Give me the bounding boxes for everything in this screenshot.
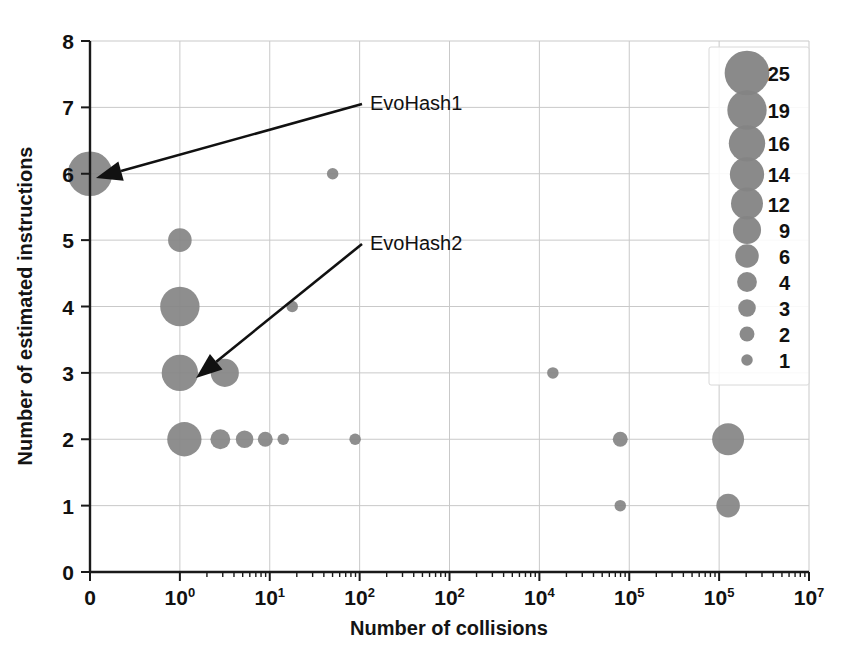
- y-tick-label: 6: [62, 163, 74, 186]
- legend-label: 4: [779, 272, 791, 294]
- legend-label: 14: [768, 164, 791, 186]
- y-axis-title: Number of estimated instructions: [14, 147, 36, 466]
- bubble-point: [277, 434, 289, 446]
- y-tick-label: 5: [62, 229, 74, 252]
- legend-label: 16: [768, 133, 790, 155]
- legend-bubble: [725, 51, 770, 96]
- y-tick-label: 8: [62, 30, 74, 53]
- bubble-point: [327, 168, 339, 180]
- bubble-point: [236, 430, 254, 448]
- bubble-evohash2: [162, 355, 198, 391]
- legend-bubble: [737, 272, 757, 292]
- legend-label: 6: [779, 246, 790, 268]
- bubble-point: [615, 500, 627, 512]
- bubble-point: [712, 423, 744, 455]
- legend-bubble: [741, 354, 753, 366]
- legend-bubble: [731, 188, 763, 220]
- bubble-point: [168, 228, 192, 252]
- legend-bubble: [733, 216, 761, 244]
- legend-bubble: [740, 327, 755, 342]
- chart-canvas: 0100101102102104105105107 012345678 Numb…: [0, 0, 858, 670]
- legend-bubble: [738, 299, 756, 317]
- legend-label: 2: [779, 324, 790, 346]
- legend-label: 12: [768, 194, 790, 216]
- legend-label: 1: [779, 350, 790, 372]
- y-tick-label: 0: [62, 561, 74, 584]
- legend-label: 9: [779, 220, 790, 242]
- y-tick-label: 4: [62, 296, 74, 319]
- y-tick-label: 1: [62, 495, 74, 518]
- bubble-point: [613, 432, 628, 447]
- y-axis-tick-labels: 012345678: [62, 30, 74, 584]
- y-tick-label: 3: [62, 362, 74, 385]
- bubble-point: [258, 432, 273, 447]
- bubble-chart-figure: 0100101102102104105105107 012345678 Numb…: [0, 0, 858, 670]
- x-axis-title: Number of collisions: [350, 617, 548, 639]
- legend-label: 3: [779, 298, 790, 320]
- x-tick-label: 0: [84, 586, 96, 609]
- annotation-label: EvoHash1: [370, 92, 462, 114]
- annotation-label: EvoHash2: [370, 232, 462, 254]
- legend-label: 25: [768, 63, 790, 85]
- legend-bubble: [727, 90, 766, 129]
- legend-bubble: [730, 157, 764, 191]
- y-tick-label: 2: [62, 428, 74, 451]
- bubble-point: [716, 494, 740, 518]
- bubble-point: [160, 287, 199, 326]
- y-tick-label: 7: [62, 96, 74, 119]
- legend-label: 19: [768, 100, 790, 122]
- bubble-point: [547, 367, 559, 379]
- bubble-point: [349, 434, 361, 446]
- legend-bubble: [735, 244, 759, 268]
- size-legend: 2519161412964321: [709, 47, 809, 385]
- bubble-point: [210, 429, 230, 449]
- bubble-point: [167, 422, 201, 456]
- legend-bubble: [729, 125, 765, 161]
